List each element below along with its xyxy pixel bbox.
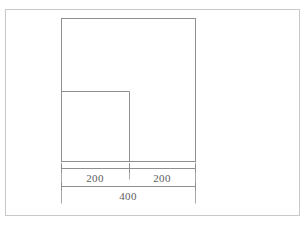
dimension-label-left-segment: 200 [86, 172, 104, 184]
dimension-label-overall-width: 400 [119, 190, 137, 202]
page-border [6, 10, 300, 216]
technical-drawing: 200 200 400 [0, 0, 306, 225]
drawing-canvas: 200 200 400 [0, 0, 306, 225]
dimension-label-right-segment: 200 [153, 172, 171, 184]
outer-profile-rect [62, 19, 196, 162]
